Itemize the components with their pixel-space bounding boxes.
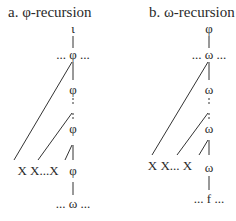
node-mid2: φ xyxy=(69,122,77,136)
node-bottom-row: X X...X xyxy=(17,164,58,178)
edge-diagonal-1 xyxy=(152,62,208,155)
panel-phi-recursion: a. φ-recursion ι ... φ ... φ φ X X...X φ… xyxy=(0,0,118,221)
tree-edges xyxy=(118,0,236,221)
node-mid1: φ xyxy=(69,83,77,97)
node-base: ... ω ... xyxy=(56,197,91,211)
node-bottom-head: ω xyxy=(205,161,214,175)
node-top: φ xyxy=(205,22,213,36)
node-upper: ... ω ... xyxy=(192,48,227,62)
node-upper: ... φ ... xyxy=(56,48,90,62)
node-mid1: ω xyxy=(205,83,214,97)
edge-diagonal-2 xyxy=(38,113,72,160)
node-mid2: ω xyxy=(205,122,214,136)
node-top: ι xyxy=(71,22,75,36)
node-bottom-row: X X... X xyxy=(148,159,192,173)
tree-edges xyxy=(0,0,118,221)
edge-diagonal-3 xyxy=(65,145,72,160)
edge-diagonal-3 xyxy=(199,140,208,155)
edge-diagonal-1 xyxy=(14,62,72,160)
node-base: ... f ... xyxy=(194,192,224,206)
node-bottom-head: φ xyxy=(69,164,77,178)
panel-omega-recursion: b. ω-recursion φ ... ω ... ω ω X X... X … xyxy=(118,0,236,221)
